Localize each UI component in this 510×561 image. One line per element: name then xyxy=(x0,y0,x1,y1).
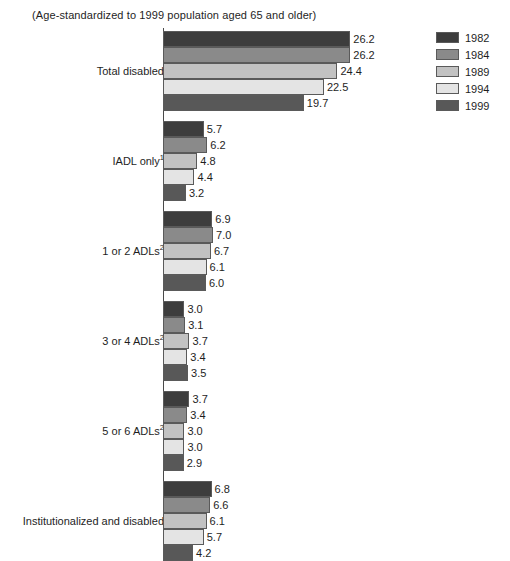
bar-value-label: 3.2 xyxy=(189,186,204,200)
bar[interactable] xyxy=(163,391,189,407)
bar[interactable] xyxy=(163,513,207,529)
bar-row: 3.4 xyxy=(163,407,423,423)
bar-value-label: 6.9 xyxy=(215,212,230,226)
bar-group: Total disabled26.226.224.422.519.7 xyxy=(0,31,420,111)
bar[interactable] xyxy=(163,349,187,365)
bar[interactable] xyxy=(163,47,350,63)
bar[interactable] xyxy=(163,95,304,111)
bar-value-label: 24.4 xyxy=(340,64,361,78)
bar-value-label: 6.7 xyxy=(214,244,229,258)
bar-row: 22.5 xyxy=(163,79,423,95)
legend-item[interactable]: 1984 xyxy=(436,47,506,62)
bar-row: 6.1 xyxy=(163,259,423,275)
bar-value-label: 5.7 xyxy=(207,530,222,544)
bar[interactable] xyxy=(163,227,213,243)
bar[interactable] xyxy=(163,333,189,349)
bar-value-label: 4.2 xyxy=(196,546,211,560)
bar[interactable] xyxy=(163,529,204,545)
bar-row: 3.7 xyxy=(163,333,423,349)
bar[interactable] xyxy=(163,185,186,201)
bar-row: 26.2 xyxy=(163,47,423,63)
legend-swatch-icon xyxy=(436,83,459,94)
bar-value-label: 7.0 xyxy=(216,228,231,242)
bar[interactable] xyxy=(163,137,207,153)
bar-group: 5 or 6 ADLs23.73.43.03.02.9 xyxy=(0,391,420,471)
bar[interactable] xyxy=(163,423,184,439)
bar[interactable] xyxy=(163,275,206,291)
bar-value-label: 4.4 xyxy=(197,170,212,184)
bar-row: 6.1 xyxy=(163,513,423,529)
bar-row: 19.7 xyxy=(163,95,423,111)
legend-label: 1982 xyxy=(465,32,489,44)
legend-item[interactable]: 1989 xyxy=(436,64,506,79)
bar[interactable] xyxy=(163,481,212,497)
bar-value-label: 6.0 xyxy=(209,276,224,290)
legend-label: 1989 xyxy=(465,66,489,78)
plot-area: Total disabled26.226.224.422.519.7IADL o… xyxy=(0,28,420,544)
bar-value-label: 3.4 xyxy=(190,408,205,422)
legend-item[interactable]: 1982 xyxy=(436,30,506,45)
bar-value-label: 6.8 xyxy=(215,482,230,496)
bar-row: 6.0 xyxy=(163,275,423,291)
bar-group: Institutionalized and disabled6.86.66.15… xyxy=(0,481,420,561)
bar-value-label: 6.1 xyxy=(210,260,225,274)
legend-item[interactable]: 1999 xyxy=(436,98,506,113)
bar-row: 24.4 xyxy=(163,63,423,79)
bar[interactable] xyxy=(163,545,193,561)
bar-value-label: 6.2 xyxy=(210,138,225,152)
bar-row: 26.2 xyxy=(163,31,423,47)
bar[interactable] xyxy=(163,31,350,47)
bar-row: 5.7 xyxy=(163,121,423,137)
bar-value-label: 3.5 xyxy=(191,366,206,380)
bar-row: 3.7 xyxy=(163,391,423,407)
bar-row: 6.8 xyxy=(163,481,423,497)
bar-value-label: 5.7 xyxy=(207,122,222,136)
legend-item[interactable]: 1994 xyxy=(436,81,506,96)
legend-label: 1984 xyxy=(465,49,489,61)
bar[interactable] xyxy=(163,317,185,333)
legend-swatch-icon xyxy=(436,100,459,111)
bar[interactable] xyxy=(163,455,184,471)
bar[interactable] xyxy=(163,407,187,423)
legend-swatch-icon xyxy=(436,32,459,43)
bar[interactable] xyxy=(163,211,212,227)
bar-row: 3.2 xyxy=(163,185,423,201)
category-label: Institutionalized and disabled xyxy=(23,515,164,527)
bar-value-label: 3.0 xyxy=(187,302,202,316)
bar-value-label: 2.9 xyxy=(187,456,202,470)
category-label: Total disabled xyxy=(97,65,164,77)
bar-value-label: 6.1 xyxy=(210,514,225,528)
bar-value-label: 3.0 xyxy=(187,424,202,438)
bar[interactable] xyxy=(163,169,194,185)
bar[interactable] xyxy=(163,497,210,513)
bar[interactable] xyxy=(163,259,207,275)
bar-row: 3.4 xyxy=(163,349,423,365)
bar[interactable] xyxy=(163,63,337,79)
bar-value-label: 6.6 xyxy=(213,498,228,512)
bar-row: 3.0 xyxy=(163,439,423,455)
bar-value-label: 26.2 xyxy=(353,32,374,46)
bar-row: 4.2 xyxy=(163,545,423,561)
bar[interactable] xyxy=(163,243,211,259)
bar-value-label: 3.1 xyxy=(188,318,203,332)
category-label: 5 or 6 ADLs2 xyxy=(102,425,164,437)
category-label: IADL only1 xyxy=(113,155,164,167)
bar[interactable] xyxy=(163,365,188,381)
bar[interactable] xyxy=(163,79,324,95)
bar[interactable] xyxy=(163,439,184,455)
bar-row: 6.7 xyxy=(163,243,423,259)
legend-swatch-icon xyxy=(436,66,459,77)
bar-row: 3.0 xyxy=(163,301,423,317)
bar-value-label: 4.8 xyxy=(200,154,215,168)
legend-label: 1999 xyxy=(465,100,489,112)
bar-row: 4.4 xyxy=(163,169,423,185)
bar[interactable] xyxy=(163,301,184,317)
bar-value-label: 19.7 xyxy=(307,96,328,110)
bar[interactable] xyxy=(163,153,197,169)
bar-row: 5.7 xyxy=(163,529,423,545)
bar[interactable] xyxy=(163,121,204,137)
legend-swatch-icon xyxy=(436,49,459,60)
bar-value-label: 3.7 xyxy=(192,392,207,406)
bar-row: 6.2 xyxy=(163,137,423,153)
